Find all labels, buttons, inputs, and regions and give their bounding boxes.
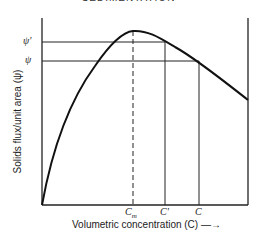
flux-curve (42, 31, 248, 205)
psi-prime-tick-label: ψ' (23, 35, 31, 46)
y-axis-label: Solids flux/unit area (ψ) (12, 57, 23, 187)
c-m-main: C (125, 206, 132, 217)
psi-tick-label: ψ (25, 54, 31, 65)
x-axis-label: Volumetric concentration (C) —→ (72, 219, 221, 230)
c-m-tick-label: Cm (125, 206, 137, 220)
c-tick-label: C (195, 206, 202, 217)
flux-chart (0, 0, 257, 237)
c-prime-tick-label: C' (160, 206, 169, 217)
